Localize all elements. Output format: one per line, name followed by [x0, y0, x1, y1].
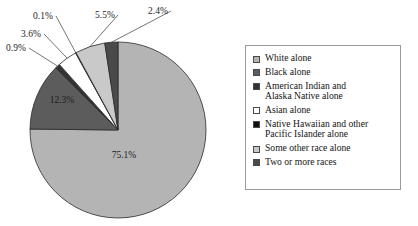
legend-item-label: American Indian and Alaska Native alone — [265, 81, 346, 102]
legend-item-label: White alone — [265, 53, 312, 63]
legend-swatch-icon — [253, 56, 260, 63]
legend-swatch-icon — [253, 69, 260, 76]
legend-swatch-icon — [253, 146, 260, 153]
legend-swatch-icon — [253, 107, 260, 114]
legend-item-label: Black alone — [265, 67, 311, 77]
legend-swatch-icon — [253, 83, 260, 90]
legend-item[interactable]: Native Hawaiian and other Pacific Island… — [253, 119, 394, 140]
legend-item[interactable]: Asian alone — [253, 105, 394, 115]
pie-chart-figure: 75.1%12.3%0.9%3.6%0.1%5.5%2.4% White alo… — [0, 0, 418, 226]
leader-line — [29, 48, 58, 66]
pie-chart-plot-area: 75.1%12.3%0.9%3.6%0.1%5.5%2.4% — [0, 0, 232, 226]
legend-item-label: Two or more races — [265, 157, 337, 167]
legend-item-label: Some other race alone — [265, 143, 351, 153]
slice-value-label: 12.3% — [50, 95, 75, 105]
pie-slices-group — [30, 42, 206, 218]
chart-legend: White aloneBlack aloneAmerican Indian an… — [245, 45, 401, 190]
pie-chart-svg: 75.1%12.3%0.9%3.6%0.1%5.5%2.4% — [0, 0, 232, 226]
slice-value-label: 0.9% — [6, 43, 26, 53]
legend-item[interactable]: Two or more races — [253, 157, 394, 167]
slice-value-label: 75.1% — [112, 150, 137, 160]
legend-swatch-icon — [253, 121, 260, 128]
slice-value-label: 0.1% — [33, 11, 53, 21]
slice-value-label: 5.5% — [95, 10, 115, 20]
legend-item[interactable]: American Indian and Alaska Native alone — [253, 81, 394, 102]
slice-value-label: 2.4% — [148, 6, 168, 16]
legend-item[interactable]: Some other race alone — [253, 143, 394, 153]
legend-item-label: Asian alone — [265, 105, 311, 115]
legend-item-label: Native Hawaiian and other Pacific Island… — [265, 119, 368, 140]
leader-line — [44, 34, 67, 58]
legend-item[interactable]: Black alone — [253, 67, 394, 77]
legend-swatch-icon — [253, 159, 260, 166]
slice-value-label: 3.6% — [21, 29, 41, 39]
legend-item-list: White aloneBlack aloneAmerican Indian an… — [253, 53, 394, 167]
legend-item[interactable]: White alone — [253, 53, 394, 63]
leader-line — [56, 16, 76, 53]
